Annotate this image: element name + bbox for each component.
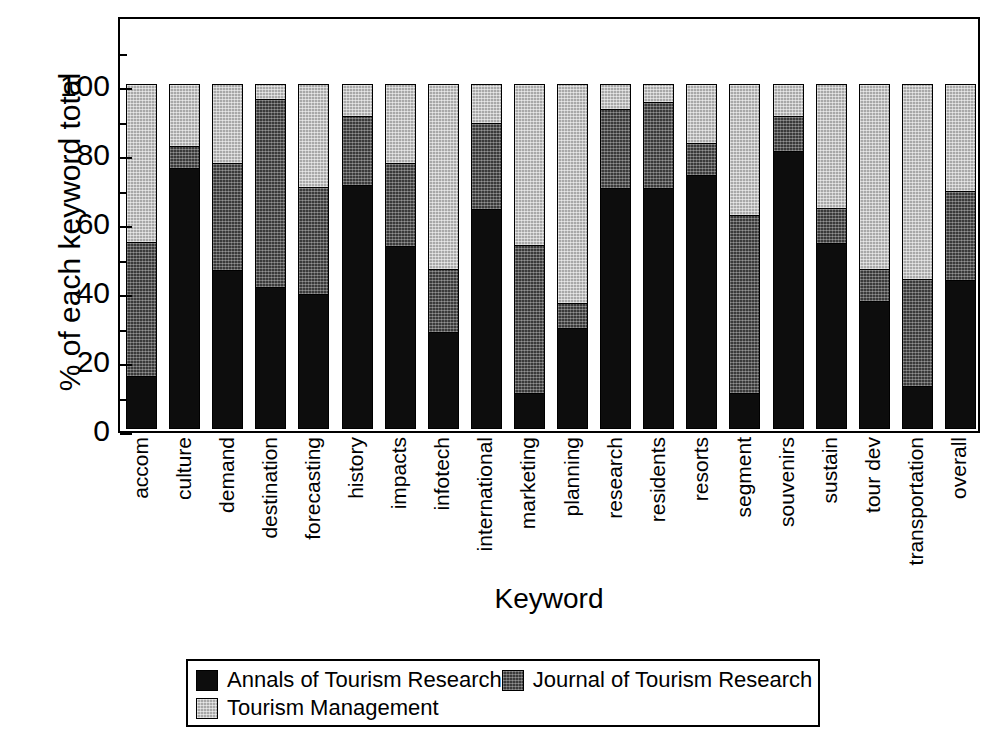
y-tick-mark-80: [120, 157, 132, 159]
stacked-bar: [471, 84, 502, 429]
y-tick-mark-0: [120, 433, 132, 435]
bar-segment: [774, 151, 803, 428]
bar-segment: [946, 191, 975, 281]
legend-label-annals: Annals of Tourism Research: [227, 669, 502, 691]
chart-legend: Annals of Tourism Research Journal of To…: [186, 659, 820, 727]
bar-segment: [127, 376, 156, 428]
bar-segment: [256, 85, 285, 99]
bar-segment: [472, 209, 501, 428]
bar-segment: [472, 85, 501, 123]
x-axis-title: Keyword: [118, 583, 980, 615]
x-axis-tick-labels: accomculturedemanddestinationforecasting…: [118, 437, 980, 577]
stacked-bar: [428, 84, 459, 429]
bar-segment: [429, 269, 458, 331]
bar-segment: [601, 109, 630, 188]
bar-segment: [429, 332, 458, 428]
bar-segment: [644, 85, 673, 102]
x-tick: sustain: [808, 437, 851, 577]
legend-entry-tourism-management: Tourism Management: [196, 694, 584, 722]
bar-segment: [170, 146, 199, 167]
bar-segment: [429, 85, 458, 269]
x-tick: destination: [247, 437, 290, 577]
bar-segment: [903, 386, 932, 428]
x-tick-label: resorts: [689, 437, 710, 501]
bar-segment: [817, 85, 846, 208]
solid-black-swatch: [196, 670, 218, 691]
stacked-bar: [126, 84, 157, 429]
x-tick: resorts: [678, 437, 721, 577]
stacked-bar: [816, 84, 847, 429]
bar-segment: [256, 99, 285, 288]
stacked-bar: [169, 84, 200, 429]
bar-segment: [644, 188, 673, 428]
bar-segment: [515, 85, 544, 245]
bar-segment: [558, 303, 587, 328]
y-tick-label-60: 60: [77, 209, 110, 239]
x-tick: forecasting: [290, 437, 333, 577]
y-tick-label-80: 80: [77, 140, 110, 170]
bar-segment: [903, 279, 932, 386]
bar-segment: [601, 188, 630, 428]
legend-label-journal: Journal of Tourism Research: [533, 669, 813, 691]
bar-segment: [687, 85, 716, 143]
stacked-bar: [686, 84, 717, 429]
bar-segment: [343, 85, 372, 116]
stacked-bar: [773, 84, 804, 429]
bar-segment: [687, 175, 716, 428]
y-tick-label-0: 0: [93, 416, 110, 446]
bar-segment: [644, 102, 673, 188]
stacked-bar: [643, 84, 674, 429]
stacked-bar: [729, 84, 760, 429]
bar-segment: [256, 287, 285, 428]
x-tick: planning: [549, 437, 592, 577]
bar-segment: [299, 187, 328, 294]
x-tick-label: souvenirs: [776, 437, 797, 527]
bar-segment: [213, 85, 242, 163]
bar-segment: [687, 143, 716, 175]
bar-segment: [730, 215, 759, 393]
x-tick-label: marketing: [517, 437, 538, 529]
x-tick-label: destination: [258, 437, 279, 539]
bar-segment: [299, 294, 328, 428]
stacked-bar: [859, 84, 890, 429]
x-tick: international: [463, 437, 506, 577]
x-tick-label: demand: [215, 437, 236, 513]
x-tick: overall: [937, 437, 980, 577]
stacked-bar: [298, 84, 329, 429]
y-minor-tick-110: [120, 54, 127, 56]
bar-segment: [946, 280, 975, 428]
y-minor-tick-90: [120, 123, 127, 125]
bar-segment: [170, 85, 199, 146]
x-tick-label: sustain: [819, 437, 840, 504]
stacked-bar: [342, 84, 373, 429]
bar-segment: [558, 85, 587, 303]
x-tick: research: [592, 437, 635, 577]
dark-hatched-swatch: [502, 670, 524, 691]
y-tick-label-100: 100: [60, 71, 110, 101]
y-axis-tick-labels: 020406080100: [28, 0, 110, 460]
x-tick-label: impacts: [388, 437, 409, 509]
x-tick-label: residents: [646, 437, 667, 522]
bar-segment: [386, 85, 415, 163]
y-minor-tick-10: [120, 399, 127, 401]
x-tick: infotech: [420, 437, 463, 577]
x-tick-label: overall: [948, 437, 969, 499]
x-tick-label: history: [345, 437, 366, 499]
bar-segment: [817, 243, 846, 428]
x-tick-label: accom: [129, 437, 150, 499]
x-tick-label: international: [474, 437, 495, 551]
x-tick: marketing: [506, 437, 549, 577]
y-minor-tick-30: [120, 330, 127, 332]
y-tick-mark-20: [120, 364, 132, 366]
x-tick-label: culture: [172, 437, 193, 500]
x-tick: demand: [204, 437, 247, 577]
y-tick-label-20: 20: [77, 347, 110, 377]
bar-segment: [127, 242, 156, 376]
stacked-bar: [600, 84, 631, 429]
bar-segment: [558, 328, 587, 428]
legend-entry-annals: Annals of Tourism Research: [196, 666, 502, 694]
x-tick: impacts: [377, 437, 420, 577]
bar-segment: [774, 85, 803, 116]
bar-segment: [515, 393, 544, 428]
bar-segment: [386, 163, 415, 246]
